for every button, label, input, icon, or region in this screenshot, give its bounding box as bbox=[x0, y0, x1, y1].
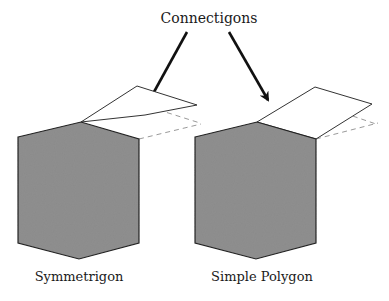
right-arrow bbox=[229, 32, 268, 100]
simple-polygon-figure: Simple Polygon bbox=[195, 87, 378, 284]
title-label: Connectigons bbox=[161, 10, 258, 26]
simple-polygon-label: Simple Polygon bbox=[211, 269, 313, 284]
connectigons-diagram: Connectigons Symmetrigon Simple Polygon bbox=[0, 0, 389, 301]
symmetrigon-figure: Symmetrigon bbox=[18, 86, 201, 284]
hidden-edge-dashed bbox=[139, 124, 201, 139]
hexagon-shape bbox=[18, 122, 139, 259]
symmetrigon-label: Symmetrigon bbox=[35, 269, 124, 284]
hexagon-shape bbox=[195, 122, 316, 259]
left-arrow bbox=[149, 32, 187, 101]
